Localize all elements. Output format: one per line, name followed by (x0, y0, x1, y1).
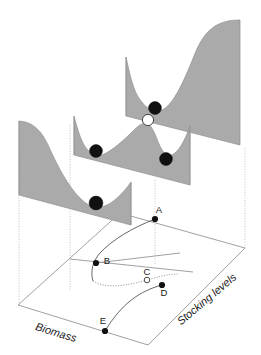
middle-ball-right (160, 153, 173, 166)
back-ball (149, 102, 162, 115)
point-E-label: E (100, 315, 106, 326)
point-C-marker (144, 277, 150, 283)
point-B-marker (93, 260, 99, 266)
axis-label-stocking-levels: Stocking levels (174, 270, 238, 327)
point-A-label: A (156, 204, 163, 215)
point-C-label: C (144, 266, 151, 277)
stability-landscape-figure: A B C D E Biomass Stocking levels (0, 0, 261, 355)
fold-curves (70, 219, 193, 331)
fold-trace-upper (70, 259, 193, 272)
point-B-label: B (104, 255, 110, 266)
axis-label-biomass: Biomass (34, 320, 78, 344)
point-A-marker (152, 216, 158, 222)
point-D-label: D (161, 287, 168, 298)
middle-ball-top (142, 114, 153, 125)
middle-ball-left (90, 145, 103, 158)
stability-landscape-svg: A B C D E Biomass Stocking levels (0, 0, 261, 355)
fold-unstable-branch (93, 274, 178, 286)
axis-labels: Biomass Stocking levels (34, 270, 239, 344)
fold-lower-branch (105, 285, 162, 331)
front-ball (89, 196, 103, 210)
point-E-marker (102, 328, 108, 334)
